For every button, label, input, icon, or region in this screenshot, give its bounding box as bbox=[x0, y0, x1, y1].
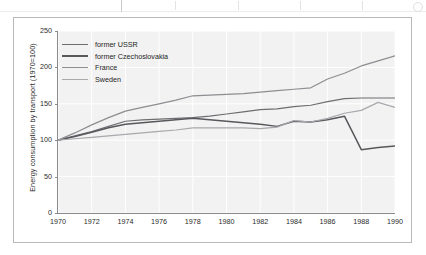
x-tick-label: 1974 bbox=[108, 217, 142, 226]
legend-swatch-icon bbox=[62, 79, 88, 80]
legend-item-france[interactable]: France bbox=[62, 62, 168, 74]
legend-label: former USSR bbox=[95, 39, 138, 51]
x-tick-label: 1972 bbox=[75, 217, 109, 226]
y-axis-line bbox=[57, 31, 58, 214]
series-line-former-czechoslovakia bbox=[58, 116, 395, 149]
y-tick-label: 200 bbox=[20, 62, 52, 71]
chart-figure: Energy consumption by transport (1970=10… bbox=[13, 17, 412, 243]
x-tick-label: 1976 bbox=[142, 217, 176, 226]
plot-wrapper: Energy consumption by transport (1970=10… bbox=[14, 18, 413, 244]
y-tick-label: 250 bbox=[20, 26, 52, 35]
ruler-corner-icon bbox=[413, 2, 423, 12]
y-tick-label: 150 bbox=[20, 99, 52, 108]
legend-label: former Czechoslovakia bbox=[95, 51, 168, 63]
ruler-left-marker bbox=[121, 0, 122, 12]
ruler-tick bbox=[362, 1, 363, 10]
y-tick-mark bbox=[55, 140, 58, 141]
x-tick-label: 1988 bbox=[344, 217, 378, 226]
legend-swatch-icon bbox=[62, 55, 88, 57]
series-line-former-ussr bbox=[58, 98, 395, 140]
x-tick-label: 1984 bbox=[277, 217, 311, 226]
ruler-tick bbox=[300, 1, 301, 10]
legend-item-former-ussr[interactable]: former USSR bbox=[62, 39, 168, 51]
x-tick-label: 1970 bbox=[41, 217, 75, 226]
y-tick-mark bbox=[55, 31, 58, 32]
x-tick-label: 1982 bbox=[243, 217, 277, 226]
top-ruler-strip bbox=[0, 0, 426, 12]
y-tick-label: 100 bbox=[20, 135, 52, 144]
y-tick-mark bbox=[55, 213, 58, 214]
legend-label: France bbox=[95, 62, 117, 74]
x-tick-label: 1978 bbox=[176, 217, 210, 226]
y-tick-label: 50 bbox=[20, 172, 52, 181]
ruler-tick bbox=[238, 1, 239, 10]
y-tick-label: 0 bbox=[20, 208, 52, 217]
legend-swatch-icon bbox=[62, 44, 88, 45]
legend-label: Sweden bbox=[95, 74, 121, 86]
x-tick-label: 1980 bbox=[210, 217, 244, 226]
chart-legend: former USSRformer CzechoslovakiaFranceSw… bbox=[62, 39, 168, 85]
legend-swatch-icon bbox=[62, 67, 88, 68]
ruler-tick bbox=[175, 1, 176, 10]
y-tick-mark bbox=[55, 104, 58, 105]
x-axis-line bbox=[57, 213, 395, 214]
x-tick-label: 1986 bbox=[311, 217, 345, 226]
legend-item-sweden[interactable]: Sweden bbox=[62, 74, 168, 86]
y-tick-mark bbox=[55, 67, 58, 68]
y-tick-mark bbox=[55, 177, 58, 178]
x-tick-label: 1990 bbox=[378, 217, 412, 226]
legend-item-former-czechoslovakia[interactable]: former Czechoslovakia bbox=[62, 51, 168, 63]
